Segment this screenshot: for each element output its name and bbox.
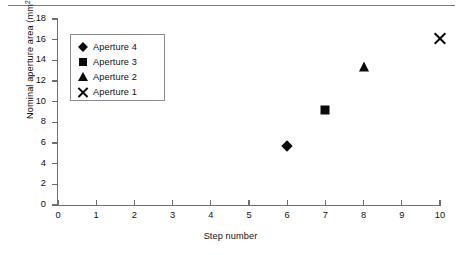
y-axis-tick [52,39,58,40]
x-axis-tick-label: 8 [349,211,379,220]
x-axis-tick [96,200,97,206]
x-axis-tick [439,200,440,206]
legend-entry-label: Aperture 3 [93,57,137,67]
x-axis-tick-label: 10 [425,211,455,220]
y-axis-tick-label: 16 [12,35,46,44]
x-axis-tick [57,200,58,206]
y-axis-tick-label: 14 [12,55,46,64]
y-axis-tick [52,80,58,81]
data-point-triangle[interactable] [359,61,369,71]
x-axis-tick [401,200,402,206]
y-axis-tick-label: 4 [12,159,46,168]
x-axis-tick-label: 9 [387,211,417,220]
legend-entry-label: Aperture 2 [93,72,137,82]
legend-swatch [71,84,93,99]
data-point-diamond[interactable] [282,140,293,151]
y-axis-tick [52,101,58,102]
x-axis-tick-label: 5 [234,211,264,220]
y-axis-tick [52,142,58,143]
y-axis-tick [52,163,58,164]
y-axis-tick-label: 18 [12,14,46,23]
legend-entry[interactable]: Aperture 3 [71,54,164,69]
x-axis-tick-label: 7 [310,211,340,220]
y-axis-tick-label: 12 [12,76,46,85]
y-axis-tick-label: 10 [12,97,46,106]
x-axis-tick-label: 6 [272,211,302,220]
x-axis-tick-label: 4 [196,211,226,220]
x-axis-tick-label: 1 [81,211,111,220]
legend-entry-label: Aperture 1 [93,87,137,97]
y-axis-line [57,19,58,206]
x-axis-tick [172,200,173,206]
y-axis-title-exponent: 2 [24,0,31,4]
cross-marker-icon [77,86,90,99]
x-axis-tick [363,200,364,206]
legend-entry-label: Aperture 4 [93,42,137,52]
y-axis-tick-label: 0 [12,200,46,209]
legend-entry[interactable]: Aperture 2 [71,69,164,84]
y-axis-tick-label: 6 [12,138,46,147]
scatter-chart-figure: Nominal aperture area (mm2) Step number … [0,0,461,255]
x-axis-tick [210,200,211,206]
square-marker-icon [79,58,87,66]
legend-swatch [71,69,93,84]
y-axis-tick [52,18,58,19]
legend-entry[interactable]: Aperture 1 [71,84,164,99]
triangle-marker-icon [78,72,88,81]
x-axis-tick-label: 3 [158,211,188,220]
x-axis-title: Step number [0,231,461,241]
x-axis-tick [287,200,288,206]
y-axis-tick [52,60,58,61]
y-axis-tick-label: 8 [12,117,46,126]
chart-legend: Aperture 4Aperture 3Aperture 2Aperture 1 [70,34,165,101]
legend-swatch [71,39,93,54]
y-axis-tick [52,184,58,185]
data-point-cross[interactable] [433,31,448,46]
y-axis-tick-label: 2 [12,179,46,188]
x-axis-tick [325,200,326,206]
legend-entry[interactable]: Aperture 4 [71,39,164,54]
x-axis-tick [134,200,135,206]
y-axis-tick [52,122,58,123]
legend-entries: Aperture 4Aperture 3Aperture 2Aperture 1 [71,39,164,99]
x-axis-tick-label: 0 [43,211,73,220]
x-axis-tick [248,200,249,206]
legend-swatch [71,54,93,69]
top-divider-rule [8,5,455,6]
diamond-marker-icon [78,42,88,52]
x-axis-tick-label: 2 [119,211,149,220]
data-point-square[interactable] [321,105,330,114]
